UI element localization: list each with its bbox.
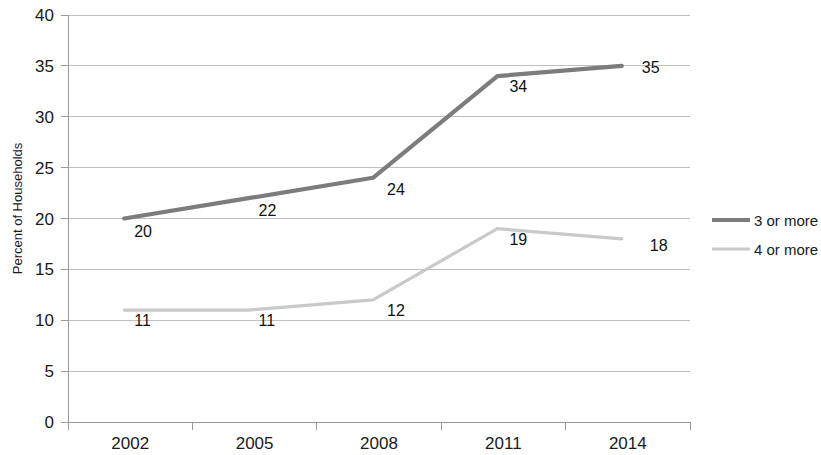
x-axis-tick-label: 2008 — [360, 434, 398, 453]
legend-label-1: 3 or more — [754, 212, 818, 229]
y-axis-tick-label: 35 — [35, 57, 54, 76]
data-point-label: 11 — [134, 312, 151, 329]
legend-label-2: 4 or more — [754, 241, 818, 258]
data-point-label: 22 — [259, 202, 277, 219]
data-point-label: 18 — [650, 237, 668, 254]
chart-container: 051015202530354020022005200820112014Perc… — [0, 0, 821, 455]
series-line-1 — [124, 66, 622, 219]
y-axis-tick-label: 30 — [35, 108, 54, 127]
x-axis-tick-label: 2011 — [485, 434, 522, 453]
line-chart: 051015202530354020022005200820112014Perc… — [0, 0, 821, 455]
data-point-label: 11 — [259, 312, 276, 329]
data-point-label: 20 — [134, 223, 152, 240]
data-point-label: 19 — [509, 231, 527, 248]
x-axis-tick-label: 2005 — [236, 434, 274, 453]
y-axis-tick-label: 20 — [35, 210, 54, 229]
y-axis-tick-label: 5 — [45, 362, 54, 381]
data-point-label: 35 — [642, 59, 660, 76]
data-point-label: 34 — [509, 78, 527, 95]
x-axis-tick-label: 2002 — [111, 434, 149, 453]
y-axis-tick-label: 15 — [35, 260, 54, 279]
y-axis-tick-label: 0 — [45, 413, 54, 432]
y-axis-tick-label: 25 — [35, 159, 54, 178]
y-axis-tick-label: 10 — [35, 311, 54, 330]
x-axis-tick-label: 2014 — [609, 434, 647, 453]
data-point-label: 12 — [387, 302, 405, 319]
y-axis-tick-label: 40 — [35, 6, 54, 25]
y-axis-title: Percent of Households — [10, 142, 25, 274]
data-point-label: 24 — [387, 181, 405, 198]
